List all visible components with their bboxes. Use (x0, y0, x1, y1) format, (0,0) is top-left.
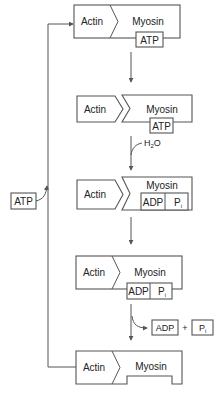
product-release-step: ADP + Pi (131, 304, 213, 340)
myosin-label: Myosin (132, 16, 164, 27)
actin-label: Actin (83, 267, 105, 278)
adp-label: ADP (128, 286, 149, 297)
actin-label: Actin (84, 189, 106, 200)
actin-label: Actin (83, 362, 105, 373)
actomyosin-cycle-diagram: ATP Actin Myosin ATP Actin Myosin ATP H2… (0, 0, 224, 400)
atp-input-box: ATP (11, 186, 47, 209)
atp-label: ATP (152, 121, 171, 132)
myosin-label: Myosin (135, 361, 167, 372)
frame-4: Actin Myosin ADP Pi (76, 256, 182, 299)
adp-label: ADP (143, 197, 164, 208)
frame-3: Actin Myosin ADP Pi (77, 177, 192, 210)
plus-sign: + (182, 323, 187, 333)
h2o-curve (131, 143, 142, 155)
myosin-label: Myosin (146, 104, 178, 115)
atp-input-arrow (36, 186, 47, 201)
actin-label: Actin (84, 104, 106, 115)
recycle-loop (48, 24, 76, 367)
actin-label: Actin (81, 16, 103, 27)
h2o-label: H2O (144, 138, 161, 149)
myosin-label: Myosin (146, 180, 178, 191)
frame-5: Actin Myosin (76, 351, 182, 384)
frame-1: Actin Myosin ATP (74, 5, 180, 47)
loop-arrow (48, 24, 76, 367)
atp-input-label: ATP (14, 196, 33, 207)
adp-product-label: ADP (156, 323, 175, 333)
frame-2: Actin Myosin ATP (77, 95, 192, 133)
atp-label: ATP (140, 35, 159, 46)
myosin-label: Myosin (134, 267, 166, 278)
release-curve (132, 316, 147, 328)
hydrolysis-step: H2O (131, 136, 161, 170)
